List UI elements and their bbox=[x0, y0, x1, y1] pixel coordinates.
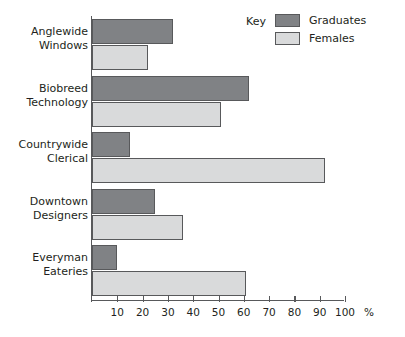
x-axis-line bbox=[91, 300, 344, 301]
category-label-line1: Everyman bbox=[32, 251, 88, 265]
bar-graduates-1 bbox=[92, 76, 249, 101]
bar-graduates-2 bbox=[92, 132, 130, 157]
bar-graduates-4 bbox=[92, 245, 117, 270]
x-axis-tick-50 bbox=[219, 296, 220, 302]
x-axis-tick-label-100: 100 bbox=[330, 306, 360, 318]
bar-graduates-3 bbox=[92, 189, 155, 214]
plot-area: % 102030405060708090100AnglewideWindowsB… bbox=[0, 0, 405, 337]
category-label-4: EverymanEateries bbox=[32, 251, 88, 279]
x-axis-tick-90 bbox=[320, 296, 321, 302]
x-axis-tick-80 bbox=[294, 296, 295, 302]
x-axis-tick-70 bbox=[269, 296, 270, 302]
category-label-0: AnglewideWindows bbox=[31, 25, 88, 53]
bar-females-0 bbox=[92, 45, 148, 70]
category-label-line2: Designers bbox=[30, 209, 88, 223]
x-axis-tick-100 bbox=[345, 296, 346, 302]
bar-chart: Key Graduates Females % 1020304050607080… bbox=[0, 0, 405, 337]
x-axis-unit-label: % bbox=[364, 306, 374, 318]
bar-females-4 bbox=[92, 271, 246, 296]
bar-graduates-0 bbox=[92, 19, 173, 44]
bar-females-1 bbox=[92, 102, 221, 127]
x-axis-tick-40 bbox=[193, 296, 194, 302]
x-axis-tick-60 bbox=[244, 296, 245, 302]
x-axis-tick-10 bbox=[117, 296, 118, 302]
category-label-line2: Technology bbox=[26, 96, 88, 110]
category-label-2: CountrywideClerical bbox=[18, 138, 88, 166]
category-label-line1: Countrywide bbox=[18, 138, 88, 152]
category-label-3: DowntownDesigners bbox=[30, 195, 88, 223]
category-label-1: BiobreedTechnology bbox=[26, 82, 88, 110]
bar-females-3 bbox=[92, 215, 183, 240]
category-label-line2: Windows bbox=[31, 39, 88, 53]
bar-females-2 bbox=[92, 158, 325, 183]
x-axis-tick-30 bbox=[168, 296, 169, 302]
x-axis-tick-20 bbox=[143, 296, 144, 302]
category-label-line1: Biobreed bbox=[26, 82, 88, 96]
category-label-line2: Eateries bbox=[32, 265, 88, 279]
category-label-line1: Anglewide bbox=[31, 25, 88, 39]
category-label-line1: Downtown bbox=[30, 195, 88, 209]
category-label-line2: Clerical bbox=[18, 152, 88, 166]
